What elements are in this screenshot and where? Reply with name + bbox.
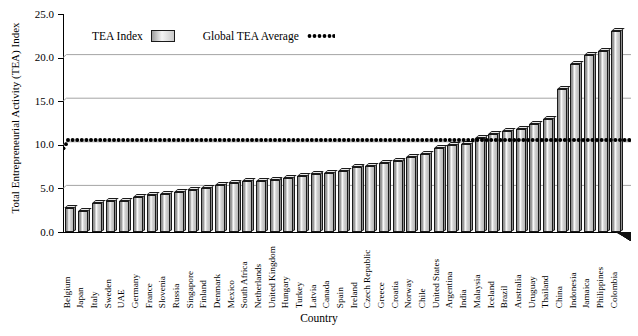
x-tick-label: Turkey xyxy=(295,282,304,308)
x-tick-label: Jamaica xyxy=(582,278,591,308)
x-tick-label: Chile xyxy=(418,288,427,308)
x-tick-label: Malaysia xyxy=(473,274,482,308)
x-tick-label: Japan xyxy=(76,287,85,308)
x-tick-label: United States xyxy=(432,259,441,308)
x-tick-label: Hungary xyxy=(281,276,290,308)
legend-label-global-average: Global TEA Average xyxy=(203,30,299,42)
y-tick-label: 10.0 xyxy=(16,139,54,150)
y-tick-label: 5.0 xyxy=(16,183,54,194)
x-tick-label: Netherlands xyxy=(254,264,263,308)
x-tick-label: Croatia xyxy=(391,281,400,308)
x-tick-label: Denmark xyxy=(213,274,222,308)
x-tick-label: India xyxy=(459,289,468,308)
chart-root: Total Entrepreneurial Activity (TEA) Ind… xyxy=(0,0,638,336)
x-tick-label: Philippines xyxy=(596,267,605,308)
legend: TEA Index Global TEA Average xyxy=(92,30,335,42)
x-tick-label: Slovenia xyxy=(158,276,167,308)
x-tick-label: Australia xyxy=(514,274,523,308)
x-tick-label: South Africa xyxy=(240,261,249,308)
y-tick-label: 0.0 xyxy=(16,227,54,238)
x-axis-labels: BelgiumJapanItalySwedenUAEGermanyFranceS… xyxy=(63,234,631,308)
x-tick-label: Mexico xyxy=(227,280,236,308)
x-tick-label: Argentina xyxy=(445,271,454,308)
x-tick-label: Russia xyxy=(172,283,181,308)
x-tick-label: Greece xyxy=(377,282,386,308)
y-tick-label: 25.0 xyxy=(16,9,54,20)
x-tick-label: Belgium xyxy=(63,276,72,308)
x-tick-label: Uruguay xyxy=(527,276,536,308)
legend-label-tea-index: TEA Index xyxy=(92,30,143,42)
x-tick-label: Sweden xyxy=(104,279,113,308)
legend-dotted-line-icon xyxy=(307,31,335,41)
y-tick-label: 20.0 xyxy=(16,52,54,63)
legend-swatch-icon xyxy=(151,30,175,42)
x-axis-title: Country xyxy=(0,312,638,324)
x-tick-label: Iceland xyxy=(486,281,495,308)
x-tick-label: Canada xyxy=(322,280,331,308)
plot-area xyxy=(63,14,631,232)
x-tick-label: Indonesia xyxy=(568,272,577,308)
x-tick-label: China xyxy=(555,286,564,308)
x-tick-label: Singapore xyxy=(186,271,195,308)
x-tick-label: Ireland xyxy=(350,282,359,308)
y-tick-label: 15.0 xyxy=(16,96,54,107)
x-tick-label: Italy xyxy=(90,291,99,308)
x-tick-label: UAE xyxy=(117,289,126,308)
x-tick-label: United Kingdom xyxy=(268,246,277,308)
x-tick-label: Thailand xyxy=(541,275,550,308)
average-reference-line xyxy=(63,14,631,232)
x-tick-label: Latvia xyxy=(309,285,318,308)
x-tick-label: France xyxy=(145,283,154,308)
x-tick-label: Brazil xyxy=(500,286,509,308)
x-tick-label: Colombia xyxy=(609,272,618,308)
x-tick-label: Norway xyxy=(404,278,413,308)
x-tick-label: Czech Republic xyxy=(363,250,372,308)
x-tick-label: Spain xyxy=(336,287,345,308)
x-tick-label: Finland xyxy=(199,280,208,308)
x-tick-label: Germany xyxy=(131,274,140,308)
